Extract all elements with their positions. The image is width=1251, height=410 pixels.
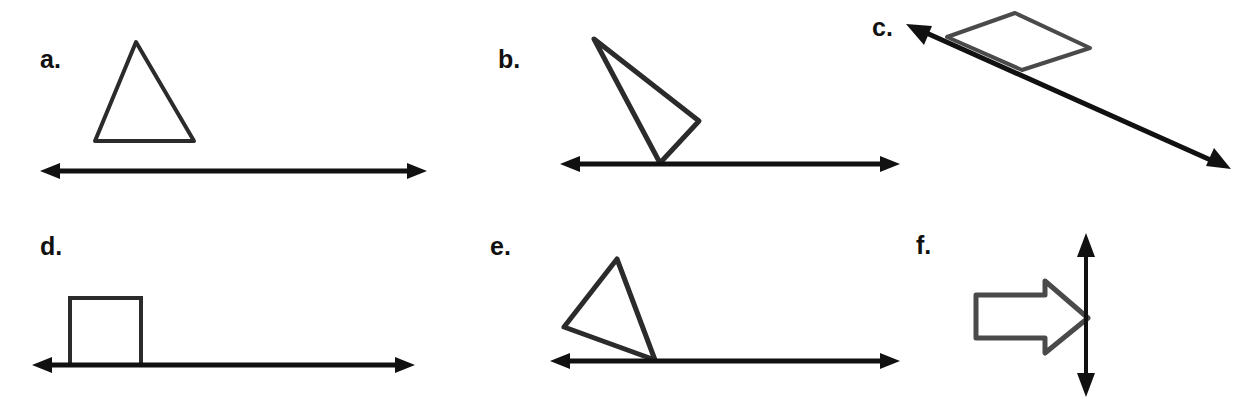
triangle-shape <box>594 39 699 163</box>
horizontal-double-arrow-line <box>40 163 427 179</box>
panel-f: f. <box>880 205 1251 410</box>
block-arrow-right-shape <box>976 281 1088 353</box>
diagonal-double-arrow-line <box>906 24 1231 169</box>
figure-f-block-arrow-on-vertical-line <box>880 205 1251 410</box>
figure-c-parallelogram-on-diagonal-line <box>850 0 1251 205</box>
horizontal-double-arrow-line <box>560 156 900 172</box>
vertical-double-arrow-line <box>1077 233 1095 397</box>
figure-a-triangle-on-line <box>0 0 450 205</box>
figure-e-triangle-on-line <box>450 205 900 410</box>
square-shape <box>70 298 141 365</box>
triangle-shape <box>564 259 655 360</box>
figure-d-square-on-line <box>0 205 450 410</box>
horizontal-double-arrow-line <box>32 357 415 373</box>
horizontal-double-arrow-line <box>550 353 900 369</box>
figure-b-triangle-on-line <box>450 0 900 205</box>
panel-e: e. <box>450 205 900 410</box>
parallelogram-shape <box>947 13 1090 70</box>
panel-a: a. <box>0 0 450 205</box>
worksheet-canvas: a. b. c. <box>0 0 1251 410</box>
panel-c: c. <box>850 0 1251 205</box>
triangle-shape <box>95 42 194 141</box>
panel-d: d. <box>0 205 450 410</box>
panel-b: b. <box>450 0 900 205</box>
